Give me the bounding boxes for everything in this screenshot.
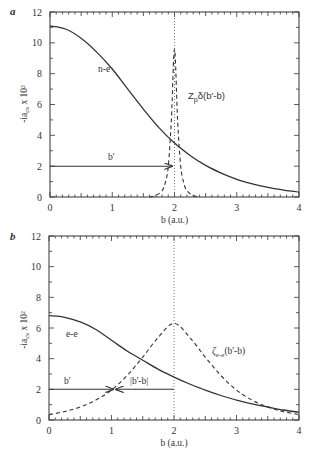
x-tick-label: 1 xyxy=(110,202,115,213)
x-tick-label: 1 xyxy=(109,425,114,436)
x-axis-title-b: b (a.u.) xyxy=(160,438,187,449)
curve-e-e xyxy=(49,316,299,413)
label-e-e: e-e xyxy=(66,329,78,339)
y-tick-label: 4 xyxy=(37,130,42,141)
y-tick-label: 10 xyxy=(32,37,42,48)
y-axis-title-a: -iacs x 10² xyxy=(19,85,31,123)
y-tick-label: 0 xyxy=(36,415,41,426)
label-b-prime-a: b' xyxy=(108,152,115,162)
y-tick-label: 8 xyxy=(37,68,42,79)
y-tick-label: 8 xyxy=(36,292,41,303)
y-tick-label: 2 xyxy=(37,161,42,172)
label-n-e: n-e xyxy=(98,64,110,74)
y-tick-label: 12 xyxy=(32,7,42,18)
x-tick-label: 4 xyxy=(297,425,302,436)
x-tick-label: 2 xyxy=(172,202,177,213)
label-b-prime-b: b' xyxy=(64,376,71,386)
x-tick-label: 2 xyxy=(172,425,177,436)
label-zeta: ζe-e(b'-b) xyxy=(212,346,245,359)
y-tick-label: 10 xyxy=(31,261,41,272)
x-tick-label: 4 xyxy=(297,202,302,213)
y-axis-title-b: -iacs x 10² xyxy=(19,311,31,349)
x-tick-label: 0 xyxy=(47,425,52,436)
panel-b: b 01234024681012 b' |b'-b| e-e ζe-e(b'-b… xyxy=(10,230,302,449)
figure: a 01234024681012 b' n-e Zpδ(b'-b) b (a.u… xyxy=(0,0,311,453)
panel-a-letter: a xyxy=(10,5,16,17)
panel-a: a 01234024681012 b' n-e Zpδ(b'-b) b (a.u… xyxy=(10,5,302,226)
panel-b-letter: b xyxy=(10,230,16,242)
y-tick-label: 6 xyxy=(37,99,42,110)
x-tick-label: 3 xyxy=(234,202,239,213)
y-tick-label: 4 xyxy=(36,353,41,364)
y-tick-label: 12 xyxy=(31,231,41,242)
y-tick-label: 6 xyxy=(36,323,41,334)
x-tick-label: 3 xyxy=(234,425,239,436)
y-tick-label: 0 xyxy=(37,192,42,203)
x-axis-title-a: b (a.u.) xyxy=(161,215,188,226)
y-tick-label: 2 xyxy=(36,384,41,395)
tick-labels-a: 01234024681012 xyxy=(32,7,302,214)
label-abs-diff: |b'-b| xyxy=(130,376,148,386)
x-tick-label: 0 xyxy=(48,202,53,213)
label-delta: Zpδ(b'-b) xyxy=(188,90,225,104)
